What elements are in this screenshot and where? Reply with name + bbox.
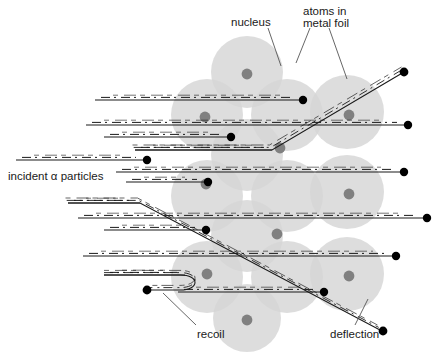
alpha-particle-dot [423, 214, 431, 222]
rutherford-scattering-diagram: nucleus atoms in metal foil incident α p… [0, 0, 432, 353]
alpha-particle-dot [392, 252, 400, 260]
alpha-particle-dot [379, 327, 388, 336]
nucleus-dot [344, 189, 355, 200]
alpha-particle-dot [400, 68, 409, 77]
label-incident-alpha-particles: incident α particles [8, 170, 104, 182]
nucleus-dot [242, 315, 253, 326]
label-atoms-in-metal-foil-line2: metal foil [303, 17, 349, 29]
alpha-particle-dot [227, 133, 235, 141]
alpha-particle-dot [143, 156, 151, 164]
alpha-particle-dot [143, 286, 152, 295]
label-atoms-in-metal-foil-line1: atoms in [303, 5, 346, 17]
nucleus-dot [272, 229, 283, 240]
diagram-canvas: nucleus atoms in metal foil incident α p… [0, 0, 432, 353]
label-deflection: deflection [330, 328, 379, 340]
alpha-particle-dot [400, 168, 408, 176]
label-nucleus: nucleus [231, 16, 271, 28]
nucleus-dot [200, 112, 211, 123]
alpha-particle-dot [299, 96, 307, 104]
alpha-particle-dot [404, 121, 412, 129]
nucleus-dot [344, 110, 355, 121]
label-recoil: recoil [197, 328, 224, 340]
alpha-particle-dot [204, 178, 212, 186]
nucleus-dot [242, 69, 253, 80]
nucleus-dot [344, 271, 355, 282]
nucleus-dot [202, 269, 213, 280]
alpha-particle-dot [320, 288, 328, 296]
